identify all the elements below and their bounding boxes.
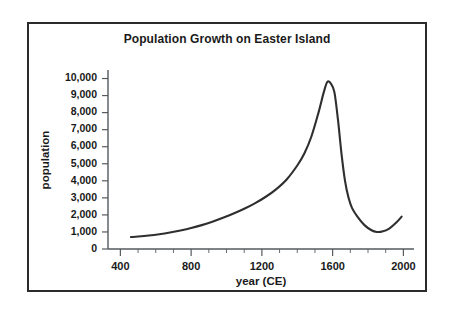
x-tick-label: 400 [111, 260, 129, 272]
y-tick-label: 0 [91, 242, 97, 254]
population-curve [131, 81, 402, 237]
y-tick-label: 10,000 [65, 71, 97, 83]
y-tick-label: 6,000 [71, 139, 97, 151]
y-axis-label: population [39, 131, 51, 190]
y-tick-label: 3,000 [71, 191, 97, 203]
y-tick-label: 9,000 [71, 88, 97, 100]
x-axis-ticks: 400800120016002000 [111, 249, 415, 272]
y-tick-label: 2,000 [71, 208, 97, 220]
y-tick-label: 7,000 [71, 122, 97, 134]
y-axis-ticks: 01,0002,0003,0004,0005,0006,0007,0008,00… [65, 71, 108, 253]
y-tick-label: 4,000 [71, 174, 97, 186]
x-tick-label: 800 [182, 260, 200, 272]
x-tick-label: 2000 [391, 260, 415, 272]
y-tick-label: 5,000 [71, 157, 97, 169]
population-line-chart: 01,0002,0003,0004,0005,0006,0007,0008,00… [29, 24, 425, 290]
x-tick-label: 1200 [250, 260, 274, 272]
y-tick-label: 1,000 [71, 225, 97, 237]
x-tick-label: 1600 [320, 260, 344, 272]
chart-figure-frame: Population Growth on Easter Island 01,00… [27, 22, 427, 292]
x-axis-label: year (CE) [236, 275, 287, 287]
y-tick-label: 8,000 [71, 105, 97, 117]
